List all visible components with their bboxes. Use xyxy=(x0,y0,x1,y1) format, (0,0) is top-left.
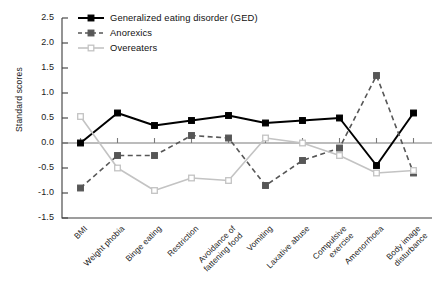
data-point-marker xyxy=(189,118,195,124)
y-tick-label: 2.0 xyxy=(28,37,54,47)
data-point-marker xyxy=(263,120,269,126)
series-line-0 xyxy=(81,113,414,166)
data-point-marker xyxy=(337,145,343,151)
legend-marker-0 xyxy=(88,15,94,21)
legend-label-2: Overeaters xyxy=(110,42,157,53)
data-point-marker xyxy=(374,163,380,169)
data-point-marker xyxy=(152,153,158,159)
chart-container: 2.52.01.51.00.50.0-0.5-1.0-1.5Generalize… xyxy=(0,0,442,296)
legend-label-0: Generalized eating disorder (GED) xyxy=(110,12,258,23)
data-point-marker xyxy=(337,115,343,121)
data-point-marker xyxy=(300,158,306,164)
series-line-2 xyxy=(81,117,414,191)
data-point-marker xyxy=(78,114,84,120)
y-tick-label: 0.0 xyxy=(28,137,54,147)
data-point-marker xyxy=(337,153,343,159)
legend-marker-1 xyxy=(88,30,94,36)
data-point-marker xyxy=(189,175,195,181)
y-tick-label: -0.5 xyxy=(28,162,54,172)
series-line-1 xyxy=(81,76,414,189)
y-tick-label: 1.5 xyxy=(28,62,54,72)
y-tick-label: -1.5 xyxy=(28,212,54,222)
data-point-marker xyxy=(78,140,84,146)
data-point-marker xyxy=(300,140,306,146)
data-point-marker xyxy=(300,118,306,124)
legend-label-1: Anorexics xyxy=(110,27,152,38)
y-tick-label: -1.0 xyxy=(28,187,54,197)
data-point-marker xyxy=(411,168,417,174)
y-tick-label: 1.0 xyxy=(28,87,54,97)
y-axis-title: Standard scores xyxy=(14,67,24,132)
data-point-marker xyxy=(115,153,121,159)
data-point-marker xyxy=(226,113,232,119)
data-point-marker xyxy=(152,123,158,129)
data-point-marker xyxy=(263,135,269,141)
data-point-marker xyxy=(263,183,269,189)
data-point-marker xyxy=(411,110,417,116)
data-point-marker xyxy=(189,133,195,139)
data-point-marker xyxy=(374,73,380,79)
data-point-marker xyxy=(374,170,380,176)
data-point-marker xyxy=(152,188,158,194)
data-point-marker xyxy=(226,135,232,141)
data-point-marker xyxy=(78,185,84,191)
data-point-marker xyxy=(226,178,232,184)
y-tick-label: 2.5 xyxy=(28,12,54,22)
data-point-marker xyxy=(115,165,121,171)
y-tick-label: 0.5 xyxy=(28,112,54,122)
legend-marker-2 xyxy=(88,45,94,51)
data-point-marker xyxy=(115,110,121,116)
